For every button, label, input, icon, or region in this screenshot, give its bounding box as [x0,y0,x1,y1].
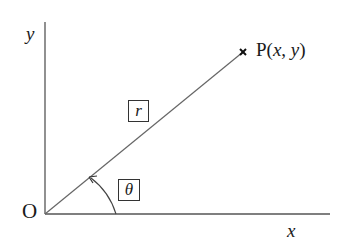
y-axis-label: y [26,24,34,43]
point-label-suffix: ) [299,39,305,60]
point-label-sep: , [281,39,291,60]
point-p-marker-icon [240,49,246,55]
diagram-canvas [0,0,348,247]
radius-label-box: r [128,100,149,122]
polar-coordinate-diagram: y x O P(x, y) r θ [0,0,348,247]
angle-label-box: θ [118,179,140,201]
point-label-prefix: P( [256,39,273,60]
origin-label: O [22,201,37,222]
point-p-label: P(x, y) [256,40,306,59]
x-axis-label: x [287,221,295,240]
angle-arc [91,178,116,214]
radius-line [45,52,243,214]
